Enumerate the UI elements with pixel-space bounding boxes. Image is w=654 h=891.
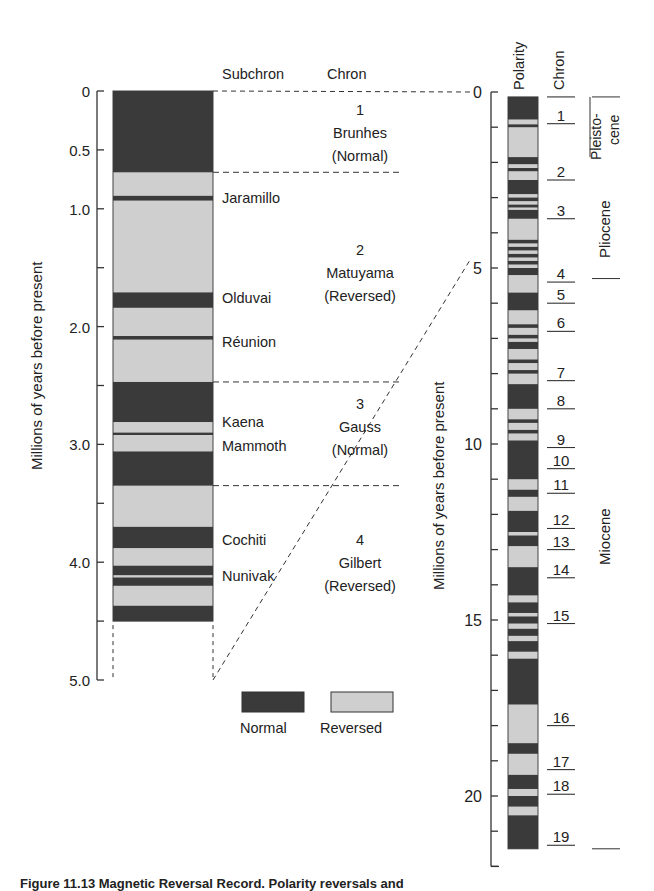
normal-band — [508, 180, 538, 194]
normal-band — [508, 247, 538, 251]
normal-band — [508, 210, 538, 219]
chron-4-block: 4 Gilbert (Reversed) — [310, 532, 410, 595]
normal-band — [508, 567, 538, 595]
chron-number-label: 18 — [553, 777, 570, 794]
legend-reversed-swatch — [331, 692, 393, 712]
normal-band — [508, 616, 538, 623]
normal-band — [113, 336, 213, 340]
left-y-tick-label: 1.0 — [69, 201, 90, 218]
left-y-axis-label: Millions of years before present — [28, 262, 45, 470]
normal-band — [508, 629, 538, 636]
connector-top-dashed — [213, 91, 470, 92]
subchron-kaena: Kaena — [222, 414, 264, 431]
normal-band — [508, 240, 538, 244]
chron-4-number: 4 — [310, 532, 410, 549]
chron-number-label: 9 — [557, 431, 565, 448]
chron-number-label: 19 — [553, 828, 570, 845]
subchron-nunivak: Nunivak — [222, 568, 274, 585]
epoch-pleistocene-line1: Pleisto- — [588, 113, 604, 160]
normal-band — [113, 527, 213, 548]
epoch-pleistocene-line2: cene — [606, 115, 622, 145]
figure-caption: Figure 11.13 Magnetic Reversal Record. P… — [20, 876, 404, 891]
normal-band — [113, 578, 213, 586]
normal-band — [508, 324, 538, 328]
normal-band — [113, 292, 213, 307]
left-y-tick-label: 3.0 — [69, 436, 90, 453]
chron-number-label: 16 — [553, 709, 570, 726]
right-y-tick-label: 20 — [464, 788, 482, 805]
chron-number-label: 12 — [553, 511, 570, 528]
normal-band — [508, 157, 538, 164]
chron-number-label: 14 — [553, 561, 570, 578]
normal-band — [113, 433, 213, 435]
chron-header: Chron — [327, 66, 367, 83]
epoch-pliocene: Pliocene — [596, 200, 613, 258]
subchron-header: Subchron — [222, 66, 284, 83]
normal-band — [508, 124, 538, 127]
normal-band — [508, 511, 538, 532]
chron-number-label: 13 — [553, 533, 570, 550]
right-chron-header: Chron — [551, 51, 567, 91]
right-y-axis-label: Millions of years before present — [430, 382, 447, 590]
chron-1-number: 1 — [310, 102, 410, 119]
chron-4-polarity: (Reversed) — [310, 578, 410, 595]
chron-number-label: 5 — [557, 286, 565, 303]
normal-band — [508, 97, 538, 120]
normal-band — [508, 775, 538, 789]
polarity-header: Polarity — [511, 42, 527, 90]
chron-3-polarity: (Normal) — [310, 442, 410, 459]
chron-number-label: 4 — [557, 265, 565, 282]
left-y-tick-label: 0 — [82, 83, 90, 100]
normal-band — [113, 606, 213, 621]
normal-band — [508, 360, 538, 364]
normal-band — [508, 168, 538, 171]
chron-number-label: 11 — [553, 476, 569, 493]
normal-band — [508, 254, 538, 258]
normal-band — [113, 451, 213, 485]
normal-band — [508, 205, 538, 208]
normal-band — [508, 796, 538, 807]
legend-normal-swatch — [242, 692, 304, 712]
chron-2-block: 2 Matuyama (Reversed) — [310, 242, 410, 305]
right-y-tick-label: 15 — [464, 612, 482, 629]
chron-4-name: Gilbert — [310, 555, 410, 572]
chron-number-label: 3 — [557, 202, 565, 219]
normal-band — [508, 536, 538, 547]
subchron-reunion: Réunion — [222, 334, 276, 351]
normal-band — [508, 490, 538, 497]
left-y-tick-label: 5.0 — [69, 672, 90, 689]
normal-band — [508, 370, 538, 374]
right-y-tick-label: 0 — [473, 84, 482, 101]
normal-band — [508, 384, 538, 409]
normal-band — [113, 196, 213, 201]
subchron-cochiti: Cochiti — [222, 532, 266, 549]
normal-band — [508, 440, 538, 479]
chron-1-polarity: (Normal) — [310, 148, 410, 165]
chron-1-name: Brunhes — [310, 125, 410, 142]
chron-number-label: 2 — [557, 163, 565, 180]
chron-number-label: 7 — [557, 364, 565, 381]
chron-number-label: 6 — [557, 314, 565, 331]
normal-band — [508, 198, 538, 202]
chron-number-label: 1 — [557, 107, 565, 124]
chron-2-number: 2 — [310, 242, 410, 259]
normal-band — [508, 268, 538, 275]
right-y-tick-label: 5 — [473, 260, 482, 277]
chron-3-name: Gauss — [310, 419, 410, 436]
chron-2-name: Matuyama — [310, 265, 410, 282]
epoch-miocene: Miocene — [596, 508, 613, 565]
chron-number-label: 10 — [553, 452, 570, 469]
normal-band — [113, 382, 213, 422]
normal-band — [113, 91, 213, 172]
normal-band — [508, 293, 538, 311]
chron-3-block: 3 Gauss (Normal) — [310, 396, 410, 459]
left-y-tick-label: 0.5 — [69, 142, 90, 159]
normal-band — [508, 261, 538, 265]
subchron-mammoth: Mammoth — [222, 438, 286, 455]
left-y-tick-label: 2.0 — [69, 319, 90, 336]
chron-number-label: 15 — [553, 607, 570, 624]
chron-number-label: 17 — [553, 753, 570, 770]
normal-band — [508, 342, 538, 349]
legend-reversed-label: Reversed — [320, 720, 382, 737]
normal-band — [508, 602, 538, 613]
